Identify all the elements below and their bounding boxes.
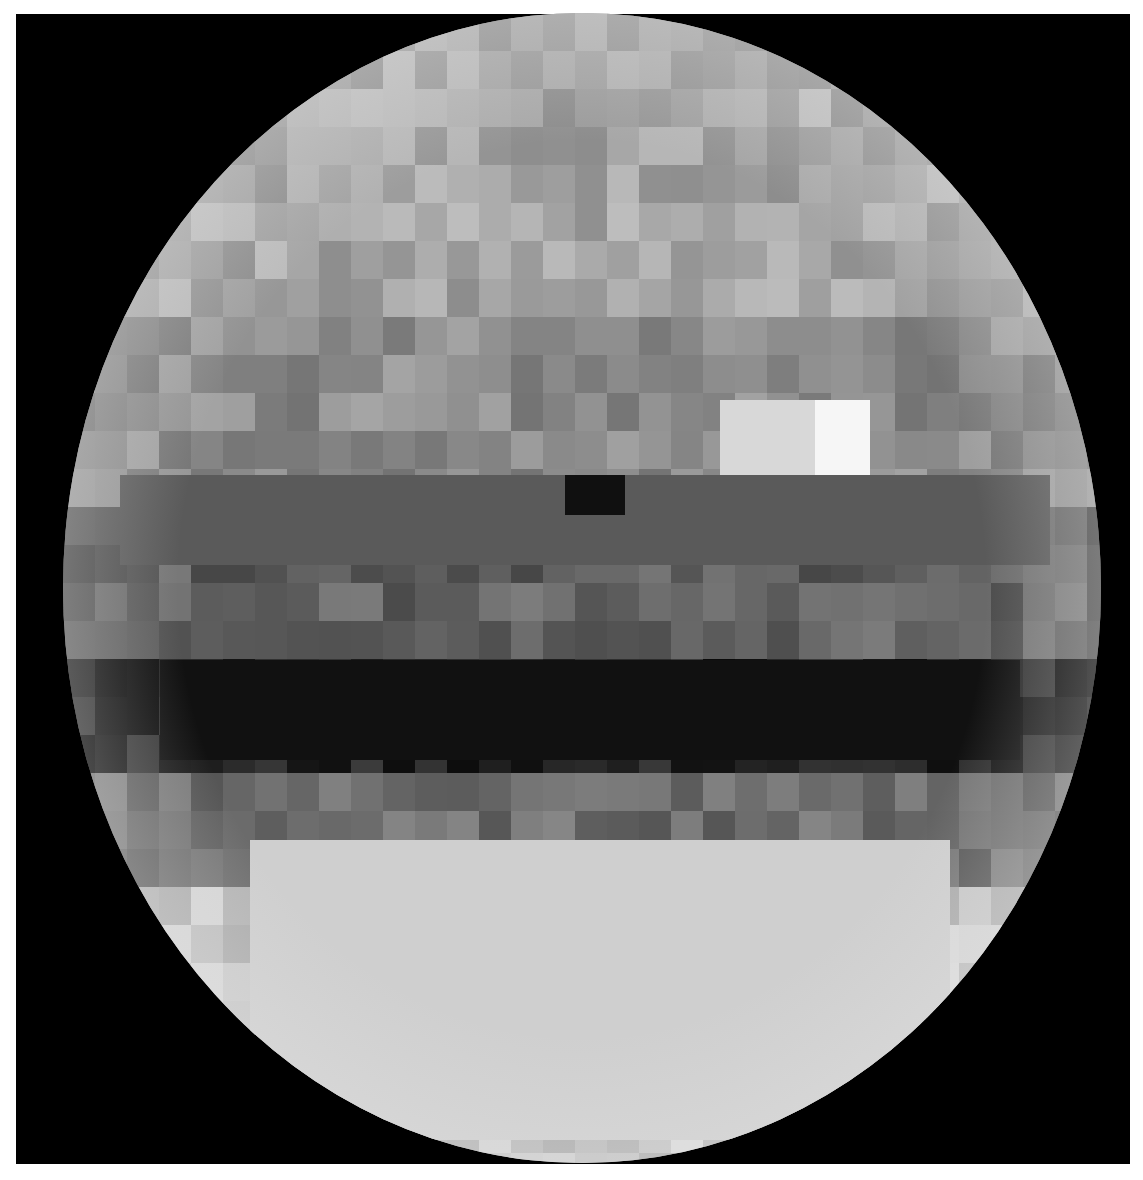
- surface-pixel: [927, 89, 959, 127]
- surface-pixel: [159, 1115, 191, 1153]
- surface-pixel: [991, 203, 1023, 241]
- surface-pixel: [1023, 887, 1055, 925]
- surface-pixel: [1055, 1001, 1087, 1039]
- surface-pixel: [991, 13, 1023, 51]
- surface-pixel: [223, 51, 255, 89]
- surface-pixel: [991, 963, 1023, 1001]
- surface-pixel: [127, 963, 159, 1001]
- surface-pixel: [63, 51, 95, 89]
- surface-pixel: [799, 1153, 831, 1163]
- surface-pixel: [863, 51, 895, 89]
- surface-pixel: [927, 127, 959, 165]
- surface-pixel: [1055, 13, 1087, 51]
- surface-pixel: [223, 1153, 255, 1163]
- surface-pixel: [895, 51, 927, 89]
- surface-pixel: [159, 89, 191, 127]
- surface-pixel: [1055, 925, 1087, 963]
- planet-globe: [63, 13, 1101, 1163]
- surface-pixel: [1055, 279, 1087, 317]
- surface-pixel: [127, 165, 159, 203]
- surface-pixel: [95, 165, 127, 203]
- surface-pixel: [127, 925, 159, 963]
- surface-pixel: [1087, 317, 1101, 355]
- surface-pixel: [959, 1077, 991, 1115]
- surface-pixel: [95, 1153, 127, 1163]
- surface-pixel: [1087, 431, 1101, 469]
- surface-pixel: [95, 51, 127, 89]
- surface-pixel: [895, 89, 927, 127]
- surface-pixel: [159, 1077, 191, 1115]
- surface-pixel: [703, 1153, 735, 1163]
- surface-pixel: [95, 963, 127, 1001]
- surface-pixel: [95, 89, 127, 127]
- surface-pixel: [159, 51, 191, 89]
- surface-pixel: [127, 1153, 159, 1163]
- surface-pixel: [991, 127, 1023, 165]
- surface-pixel: [1087, 887, 1101, 925]
- surface-pixel: [63, 317, 95, 355]
- surface-pixel: [63, 203, 95, 241]
- surface-pixel: [63, 89, 95, 127]
- surface-pixel: [95, 925, 127, 963]
- surface-pixel: [127, 127, 159, 165]
- surface-pixel: [127, 1115, 159, 1153]
- surface-pixel: [1023, 1039, 1055, 1077]
- surface-pixel: [927, 13, 959, 51]
- surface-pixel: [831, 13, 863, 51]
- surface-pixel: [927, 1153, 959, 1163]
- surface-pixel: [1023, 963, 1055, 1001]
- surface-pixel: [95, 887, 127, 925]
- surface-pixel: [991, 165, 1023, 203]
- surface-pixel: [63, 355, 95, 393]
- surface-pixel: [351, 1153, 383, 1163]
- surface-pixel: [959, 1039, 991, 1077]
- surface-pixel: [95, 13, 127, 51]
- surface-pixel: [415, 1153, 447, 1163]
- surface-pixel: [223, 13, 255, 51]
- surface-pixel: [255, 1153, 287, 1163]
- surface-pixel: [191, 13, 223, 51]
- surface-pixel: [1087, 241, 1101, 279]
- surface-pixel: [895, 13, 927, 51]
- surface-pixel: [1023, 165, 1055, 203]
- surface-pixel: [159, 127, 191, 165]
- surface-pixel: [191, 51, 223, 89]
- surface-pixel: [1023, 241, 1055, 279]
- surface-pixel: [63, 963, 95, 1001]
- surface-pixel: [959, 165, 991, 203]
- surface-pixel: [1023, 1077, 1055, 1115]
- surface-pixel: [1055, 1115, 1087, 1153]
- surface-pixel: [255, 13, 287, 51]
- surface-pixel: [63, 811, 95, 849]
- surface-pixel: [95, 279, 127, 317]
- surface-pixel: [1023, 127, 1055, 165]
- surface-pixel: [319, 13, 351, 51]
- surface-pixel: [1087, 925, 1101, 963]
- surface-pixel: [959, 1115, 991, 1153]
- surface-pixel: [1087, 203, 1101, 241]
- surface-pixel: [383, 1153, 415, 1163]
- surface-pixel: [127, 203, 159, 241]
- surface-pixel: [191, 1001, 223, 1039]
- surface-pixel: [959, 127, 991, 165]
- surface-pixel: [799, 13, 831, 51]
- surface-pixel: [95, 1115, 127, 1153]
- surface-pixel: [1087, 1153, 1101, 1163]
- surface-pixel: [63, 1153, 95, 1163]
- surface-pixel: [735, 1153, 767, 1163]
- surface-pixel: [1087, 963, 1101, 1001]
- surface-pixel: [191, 127, 223, 165]
- surface-pixel: [1023, 203, 1055, 241]
- surface-pixel: [447, 1153, 479, 1163]
- surface-pixel: [127, 1001, 159, 1039]
- surface-pixel: [831, 51, 863, 89]
- surface-pixel: [1055, 89, 1087, 127]
- surface-pixel: [159, 165, 191, 203]
- surface-pixel: [1087, 773, 1101, 811]
- surface-pixel: [287, 13, 319, 51]
- surface-pixel: [1087, 279, 1101, 317]
- surface-pixel: [63, 849, 95, 887]
- surface-pixel: [159, 963, 191, 1001]
- surface-pixel: [1023, 1001, 1055, 1039]
- surface-pixel: [927, 51, 959, 89]
